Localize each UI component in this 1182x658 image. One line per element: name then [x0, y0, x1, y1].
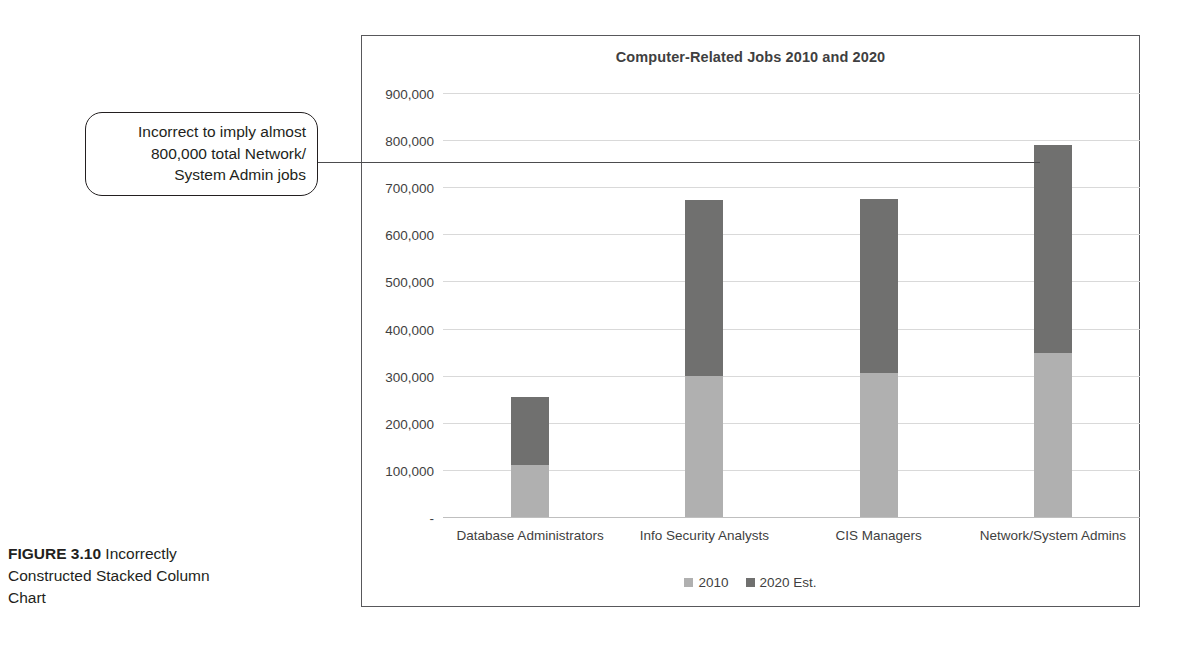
callout-line-1: Incorrect to imply almost	[97, 121, 306, 143]
legend-item[interactable]: 2020 Est.	[746, 575, 817, 590]
gridline: -	[443, 517, 1140, 518]
bar-segment-2020[interactable]	[511, 397, 549, 465]
chart-frame: Computer-Related Jobs 2010 and 2020 -100…	[361, 35, 1140, 607]
bar-segment-2020[interactable]	[860, 199, 898, 373]
legend-label: 2010	[698, 575, 728, 590]
callout-leader-line	[318, 162, 1040, 163]
y-axis-tick-label: 700,000	[385, 181, 434, 196]
y-axis-tick-label: 200,000	[385, 416, 434, 431]
y-axis-tick-label: 400,000	[385, 322, 434, 337]
x-axis-category-label: CIS Managers	[800, 526, 958, 545]
figure-number: FIGURE 3.10	[8, 545, 101, 562]
gridline: 800,000	[443, 140, 1140, 141]
chart-title: Computer-Related Jobs 2010 and 2020	[362, 49, 1139, 65]
bar-column[interactable]	[1034, 145, 1072, 517]
y-axis-tick-label: 100,000	[385, 463, 434, 478]
y-axis-tick-label: 600,000	[385, 228, 434, 243]
callout-line-2: 800,000 total Network/	[97, 143, 306, 165]
bar-segment-2010[interactable]	[1034, 353, 1072, 517]
legend-label: 2020 Est.	[760, 575, 817, 590]
y-axis-tick-label: 800,000	[385, 134, 434, 149]
y-axis-tick-label: -	[430, 511, 435, 526]
bar-column[interactable]	[511, 397, 549, 517]
y-axis-tick-label: 300,000	[385, 369, 434, 384]
legend-swatch-icon	[684, 578, 693, 587]
x-axis-category-label: Network/System Admins	[974, 526, 1132, 545]
callout-annotation: Incorrect to imply almost 800,000 total …	[85, 112, 318, 196]
x-axis-category-label: Info Security Analysts	[625, 526, 783, 545]
plot-area: -100,000200,000300,000400,000500,000600,…	[443, 93, 1140, 517]
legend-swatch-icon	[746, 578, 755, 587]
chart-legend: 20102020 Est.	[362, 575, 1139, 590]
callout-line-3: System Admin jobs	[97, 164, 306, 186]
y-axis-tick-label: 900,000	[385, 87, 434, 102]
bar-segment-2010[interactable]	[685, 376, 723, 517]
bar-segment-2020[interactable]	[1034, 145, 1072, 353]
gridline: 900,000	[443, 93, 1140, 94]
y-axis-tick-label: 500,000	[385, 275, 434, 290]
x-axis-category-label: Database Administrators	[451, 526, 609, 545]
bar-column[interactable]	[685, 200, 723, 517]
bar-segment-2010[interactable]	[860, 373, 898, 517]
bar-column[interactable]	[860, 199, 898, 517]
bar-segment-2010[interactable]	[511, 465, 549, 517]
figure-caption: FIGURE 3.10 Incorrectly Constructed Stac…	[8, 543, 240, 609]
bar-segment-2020[interactable]	[685, 200, 723, 375]
legend-item[interactable]: 2010	[684, 575, 728, 590]
